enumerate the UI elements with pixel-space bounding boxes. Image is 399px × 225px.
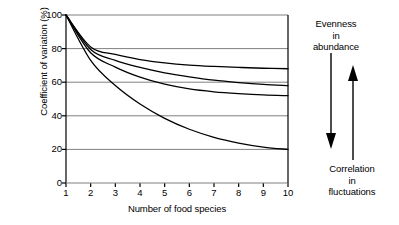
annotation-correlation-line1: Correlation [310, 163, 394, 175]
annotation-evenness-line1: Evenness [298, 18, 374, 30]
annotation-evenness-line3: abundance [298, 41, 374, 53]
annotation-correlation: Correlation in fluctuations [310, 163, 394, 198]
down-arrow-icon [326, 53, 336, 149]
annotation-evenness-line2: in [298, 30, 374, 42]
up-arrow-icon [348, 65, 358, 160]
annotation-correlation-line2: in [310, 175, 394, 187]
annotation-correlation-line3: fluctuations [310, 186, 394, 198]
chart-figure: Coefficient of variation (%) 0 20 40 60 … [0, 0, 399, 225]
annotation-evenness: Evenness in abundance [298, 18, 374, 53]
